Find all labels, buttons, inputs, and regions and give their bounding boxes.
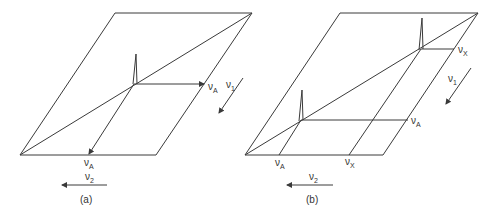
label-nu2-a: ν2 [85,171,94,184]
label-nuA-bottom-b: νA [275,157,285,170]
label-nu2-b: ν2 [309,171,318,184]
panel-b: νX νA ν1 νA νX ν2 (b) [245,13,478,205]
label-nu1-a: ν1 [226,79,235,92]
axis-arrow-nu1-a [219,78,243,113]
caption-b: (b) [306,194,318,205]
label-nuA-bottom-a: νA [84,157,94,170]
diagonal-peak-A-b [299,90,303,121]
label-nuA-right-a: νA [208,81,218,94]
projection-line-X-vertical [349,49,421,155]
label-nuX-bottom-b: νX [345,156,355,169]
label-nu1-b: ν1 [448,73,457,86]
nmr-2d-diagram: νA ν1 νA ν2 (a) νX νA ν1 νA νX ν2 (b) [0,0,493,214]
projection-arrow-nu2-a [89,84,134,154]
diagonal-peak-a [133,54,137,84]
label-nuX-right-b: νX [458,44,468,57]
diagonal-peak-X-b [419,18,423,50]
caption-a: (a) [80,194,92,205]
projection-line-A-vertical [279,120,301,155]
panel-a: νA ν1 νA ν2 (a) [20,13,252,205]
label-nuA-right-b: νA [411,115,421,128]
diagonal-line-b [245,13,478,155]
